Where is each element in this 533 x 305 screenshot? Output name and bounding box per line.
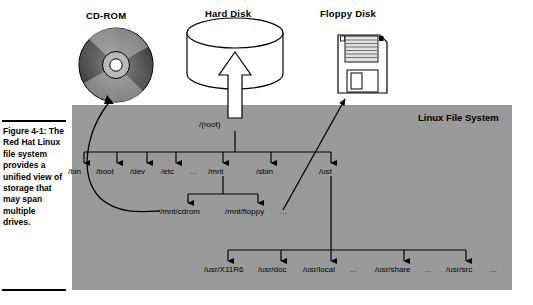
node-mnt-cdrom: /mnt/cdrom <box>160 207 200 216</box>
panel-title: Linux File System <box>418 112 499 123</box>
figure-caption: Figure 4-1: The Red Hat Linux file syste… <box>3 126 65 229</box>
harddisk-label: Hard Disk <box>205 8 251 19</box>
node-usr-x11r6: /usr/X11R6 <box>204 265 243 274</box>
floppy-icon <box>338 35 387 93</box>
node-ellipsis-mnt: ... <box>280 207 287 216</box>
node-mnt-floppy: /mnt/floppy <box>225 207 264 216</box>
node-ellipsis-usr-1: ... <box>350 265 357 274</box>
node-usr-doc: /usr/doc <box>258 265 286 274</box>
node-usr-share: /usr/share <box>375 265 411 274</box>
node-boot: /boot <box>96 167 114 176</box>
figure-linux-file-system: CD-ROM Hard Disk Floppy Disk Linux File … <box>0 0 533 305</box>
node-root: /(root) <box>199 120 220 129</box>
cdrom-label: CD-ROM <box>86 10 126 21</box>
node-usr: /ust <box>319 167 332 176</box>
node-sbin: /sbin <box>256 167 273 176</box>
caption-title: Figure 4-1: <box>3 126 46 136</box>
caption-body: The Red Hat Linux file system provides a… <box>3 126 64 227</box>
node-bin: /bin <box>68 167 81 176</box>
node-mnt: /mnt <box>208 167 224 176</box>
node-dev: /dev <box>130 167 145 176</box>
cdrom-icon <box>79 28 153 102</box>
node-ellipsis-level1: ... <box>190 167 197 176</box>
node-usr-local: /usr/local <box>303 265 335 274</box>
node-ellipsis-usr-2: ... <box>425 265 432 274</box>
node-etc: /etc <box>161 167 174 176</box>
figure-artwork <box>0 0 533 305</box>
linux-file-system-panel <box>72 105 512 290</box>
node-ellipsis-usr-3: ... <box>490 265 497 274</box>
floppy-label: Floppy Disk <box>320 8 376 19</box>
node-usr-src: /usr/src <box>446 265 472 274</box>
